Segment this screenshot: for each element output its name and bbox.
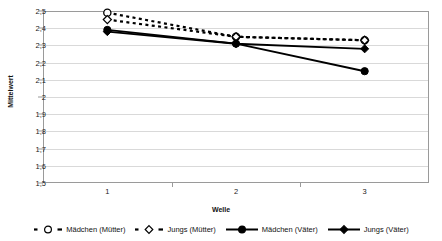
y-tick-mark bbox=[38, 28, 43, 29]
y-tick-mark bbox=[38, 11, 43, 12]
y-axis-title: Mittelwert bbox=[7, 52, 14, 132]
y-tick-mark bbox=[38, 62, 43, 63]
y-tick-mark bbox=[38, 79, 43, 80]
legend-item[interactable]: Mädchen (Väter) bbox=[225, 224, 318, 235]
x-tick-label: 1 bbox=[87, 187, 127, 196]
legend-swatch bbox=[134, 224, 164, 235]
legend-label: Mädchen (Mütter) bbox=[66, 225, 125, 234]
chart-legend: Mädchen (Mütter)Jungs (Mütter)Mädchen (V… bbox=[0, 224, 442, 235]
x-tick-label: 2 bbox=[216, 187, 256, 196]
legend-swatch bbox=[327, 224, 361, 235]
x-tick-mark bbox=[172, 183, 173, 187]
gridline bbox=[44, 166, 428, 167]
legend-swatch bbox=[33, 224, 63, 235]
y-tick-mark bbox=[38, 148, 43, 149]
legend-swatch bbox=[225, 224, 259, 235]
x-tick-mark bbox=[300, 183, 301, 187]
gridline bbox=[44, 80, 428, 81]
gridline bbox=[44, 131, 428, 132]
y-tick-mark bbox=[38, 97, 43, 98]
legend-item[interactable]: Jungs (Väter) bbox=[327, 224, 409, 235]
y-tick-mark bbox=[38, 131, 43, 132]
x-axis-title: Welle bbox=[0, 206, 442, 213]
gridline bbox=[44, 97, 428, 98]
gridline bbox=[44, 114, 428, 115]
legend-item[interactable]: Mädchen (Mütter) bbox=[33, 224, 125, 235]
y-tick-mark bbox=[38, 165, 43, 166]
legend-item[interactable]: Jungs (Mütter) bbox=[134, 224, 215, 235]
legend-label: Jungs (Mütter) bbox=[167, 225, 215, 234]
y-tick-mark bbox=[38, 183, 43, 184]
y-tick-mark bbox=[38, 114, 43, 115]
y-tick-mark bbox=[38, 45, 43, 46]
gridline bbox=[44, 28, 428, 29]
gridline bbox=[44, 45, 428, 46]
line-chart: Mittelwert 1,51,61,71,81,922,12,22,32,42… bbox=[0, 0, 442, 241]
plot-area bbox=[43, 11, 429, 183]
legend-label: Mädchen (Väter) bbox=[262, 225, 318, 234]
legend-label: Jungs (Väter) bbox=[364, 225, 409, 234]
x-tick-label: 3 bbox=[345, 187, 385, 196]
gridline bbox=[44, 63, 428, 64]
gridline bbox=[44, 149, 428, 150]
